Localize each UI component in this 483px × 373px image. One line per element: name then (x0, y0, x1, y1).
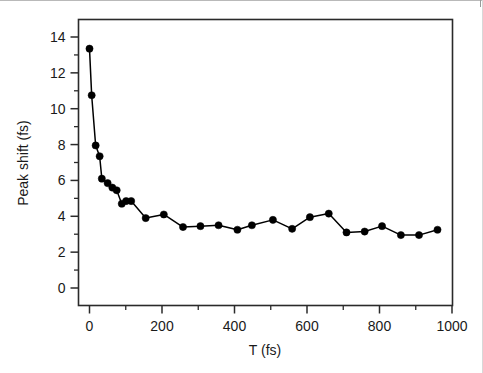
data-point (86, 45, 93, 52)
figure-page: 02004006008001000 02468101214 T (fs) Pea… (0, 0, 483, 373)
data-point (415, 232, 422, 239)
y-tick-label-8: 8 (58, 137, 66, 153)
data-point (96, 153, 103, 160)
data-point (215, 222, 222, 229)
y-tick-label-12: 12 (50, 65, 66, 81)
data-point (92, 142, 99, 149)
data-point (128, 197, 135, 204)
y-tick-label-4: 4 (58, 208, 66, 224)
y-axis-title: Peak shift (fs) (15, 120, 31, 206)
x-tick-label-1000: 1000 (436, 318, 467, 334)
peak-shift-chart: 02004006008001000 02468101214 T (fs) Pea… (0, 0, 483, 373)
data-point (88, 92, 95, 99)
y-tick-label-6: 6 (58, 172, 66, 188)
y-tick-label-0: 0 (58, 280, 66, 296)
x-axis-tick-labels: 02004006008001000 (86, 318, 468, 334)
data-point (397, 232, 404, 239)
x-axis-title: T (fs) (249, 342, 281, 358)
data-series-group (86, 45, 441, 239)
data-point (434, 226, 441, 233)
y-axis-tick-labels: 02468101214 (50, 29, 66, 296)
y-tick-label-10: 10 (50, 101, 66, 117)
data-point (142, 214, 149, 221)
series-line-peak-shift (90, 49, 438, 235)
y-tick-label-14: 14 (50, 29, 66, 45)
x-tick-label-200: 200 (150, 318, 174, 334)
x-tick-label-400: 400 (223, 318, 247, 334)
data-point (113, 187, 120, 194)
data-point (197, 223, 204, 230)
x-tick-label-800: 800 (368, 318, 392, 334)
data-point (306, 214, 313, 221)
x-tick-label-0: 0 (86, 318, 94, 334)
data-point (378, 223, 385, 230)
x-tick-label-600: 600 (295, 318, 319, 334)
chart-svg: 02004006008001000 02468101214 T (fs) Pea… (0, 0, 483, 373)
data-point (361, 228, 368, 235)
data-point (234, 226, 241, 233)
data-point (269, 216, 276, 223)
data-point (179, 223, 186, 230)
data-point (160, 211, 167, 218)
data-point (248, 222, 255, 229)
data-point (343, 229, 350, 236)
y-tick-label-2: 2 (58, 244, 66, 260)
data-point (289, 225, 296, 232)
data-point (325, 210, 332, 217)
plot-frame (79, 20, 453, 306)
